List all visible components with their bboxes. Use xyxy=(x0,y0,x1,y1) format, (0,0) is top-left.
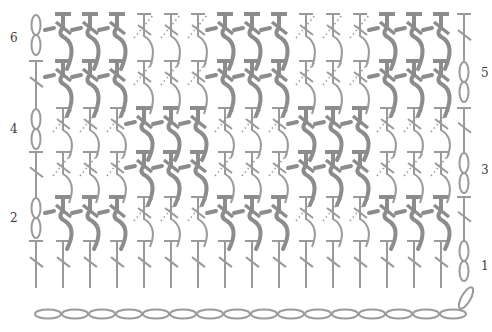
chain-stitch-icon xyxy=(32,129,41,149)
post-hook xyxy=(180,166,189,168)
post-hook xyxy=(99,211,108,213)
post-stitch-icon xyxy=(144,14,153,67)
chain-stitch-icon xyxy=(251,310,277,319)
post-hook xyxy=(180,122,189,124)
post-hook xyxy=(234,211,243,213)
chain-stitch-icon xyxy=(32,15,41,35)
chain-stitch-icon xyxy=(278,310,304,319)
post-hook xyxy=(369,28,378,30)
post-hook xyxy=(207,28,216,30)
post-stitch-icon xyxy=(360,14,369,67)
post-hook xyxy=(423,75,432,77)
post-hook xyxy=(342,166,351,168)
chain-stitch-icon xyxy=(460,62,469,82)
post-hook xyxy=(423,211,432,213)
post-hook xyxy=(99,75,108,77)
post-hook xyxy=(396,211,405,213)
post-hook xyxy=(234,75,243,77)
chain-stitch-icon xyxy=(62,310,88,319)
chain-stitch-icon xyxy=(143,310,169,319)
chain-stitch-icon xyxy=(32,198,41,218)
post-hook xyxy=(261,75,270,77)
chain-stitch-icon xyxy=(359,310,385,319)
post-hook xyxy=(153,122,162,124)
chain-stitch-icon xyxy=(386,310,412,319)
post-hook xyxy=(315,122,324,124)
post-hook xyxy=(153,166,162,168)
post-hook xyxy=(207,75,216,77)
chain-stitch-icon xyxy=(460,82,469,102)
chain-stitch-icon xyxy=(460,241,469,261)
post-hook xyxy=(261,28,270,30)
post-hook xyxy=(315,166,324,168)
post-hook xyxy=(72,28,81,30)
chain-stitch-icon xyxy=(32,109,41,129)
chain-stitch-icon xyxy=(116,310,142,319)
chain-stitch-icon xyxy=(460,173,469,193)
row-label-3: 3 xyxy=(481,163,489,177)
post-stitch-icon xyxy=(171,14,180,67)
chain-stitch-icon xyxy=(413,310,439,319)
row-label-6: 6 xyxy=(10,31,18,45)
chain-stitch-icon xyxy=(460,261,469,281)
chain-stitch-icon xyxy=(35,310,61,319)
post-hook xyxy=(369,211,378,213)
post-hook xyxy=(261,211,270,213)
post-stitch-icon xyxy=(306,14,315,67)
post-hook xyxy=(45,75,54,77)
row-label-2: 2 xyxy=(10,211,18,225)
post-hook xyxy=(342,122,351,124)
chain-stitch-icon xyxy=(440,310,466,319)
post-hook xyxy=(288,166,297,168)
chain-stitch-icon xyxy=(170,310,196,319)
post-hook xyxy=(72,211,81,213)
post-hook xyxy=(72,75,81,77)
chain-stitch-icon xyxy=(460,153,469,173)
post-hook xyxy=(369,75,378,77)
chain-stitch-icon xyxy=(32,218,41,238)
post-hook xyxy=(126,166,135,168)
post-hook xyxy=(99,28,108,30)
row-label-5: 5 xyxy=(481,66,489,80)
chain-stitch-icon xyxy=(89,310,115,319)
post-hook xyxy=(207,211,216,213)
post-hook xyxy=(288,122,297,124)
chain-stitch-icon xyxy=(332,310,358,319)
post-hook xyxy=(423,28,432,30)
row-label-1: 1 xyxy=(481,259,489,273)
post-hook xyxy=(396,75,405,77)
post-hook xyxy=(45,28,54,30)
post-hook xyxy=(45,211,54,213)
chain-stitch-icon xyxy=(224,310,250,319)
chain-stitch-icon xyxy=(197,310,223,319)
crochet-chart xyxy=(0,0,492,332)
post-hook xyxy=(126,122,135,124)
row-label-4: 4 xyxy=(10,122,18,136)
post-stitch-icon xyxy=(333,14,342,67)
post-hook xyxy=(396,28,405,30)
post-stitch-icon xyxy=(198,14,207,67)
chain-stitch-icon xyxy=(305,310,331,319)
chain-stitch-icon xyxy=(456,285,476,310)
post-hook xyxy=(234,28,243,30)
chain-stitch-icon xyxy=(32,35,41,55)
